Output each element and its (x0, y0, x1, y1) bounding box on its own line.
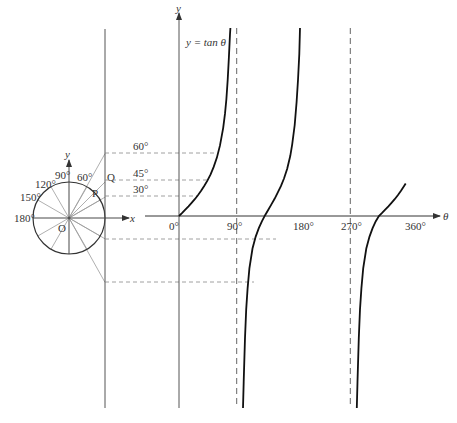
circle-x-label: x (129, 212, 135, 224)
tick-270: 270° (341, 220, 362, 232)
point-q-label: Q (107, 171, 115, 183)
graph-y-label: y (175, 2, 181, 14)
point-p-label: P (92, 187, 98, 199)
angle-label-120: 120° (35, 178, 56, 190)
angle-label-150: 150° (20, 191, 41, 203)
tan-diagram: x y O P Q 60° 90° 120° 150° 180° 60° 45°… (0, 0, 457, 423)
tick-0: 0° (169, 220, 179, 232)
origin-label: O (58, 222, 66, 234)
tan-branch-3 (357, 184, 406, 409)
tick-360: 360° (405, 220, 426, 232)
angle-label-90: 90° (55, 169, 70, 181)
proj-label-45: 45° (133, 167, 148, 179)
unit-circle-group: x y O P Q 60° 90° 120° 150° 180° (14, 148, 135, 282)
circle-y-label: y (64, 148, 70, 160)
tan-branch-1 (179, 28, 230, 216)
tick-180: 180° (293, 220, 314, 232)
curve-label: y = tan θ (185, 36, 227, 48)
tan-branch-2 (243, 28, 300, 408)
proj-label-60: 60° (133, 140, 148, 152)
theta-axis-label: θ (443, 210, 449, 222)
tick-90: 90° (227, 220, 242, 232)
angle-label-180: 180° (14, 212, 35, 224)
proj-label-30: 30° (133, 183, 148, 195)
angle-label-60: 60° (77, 171, 92, 183)
